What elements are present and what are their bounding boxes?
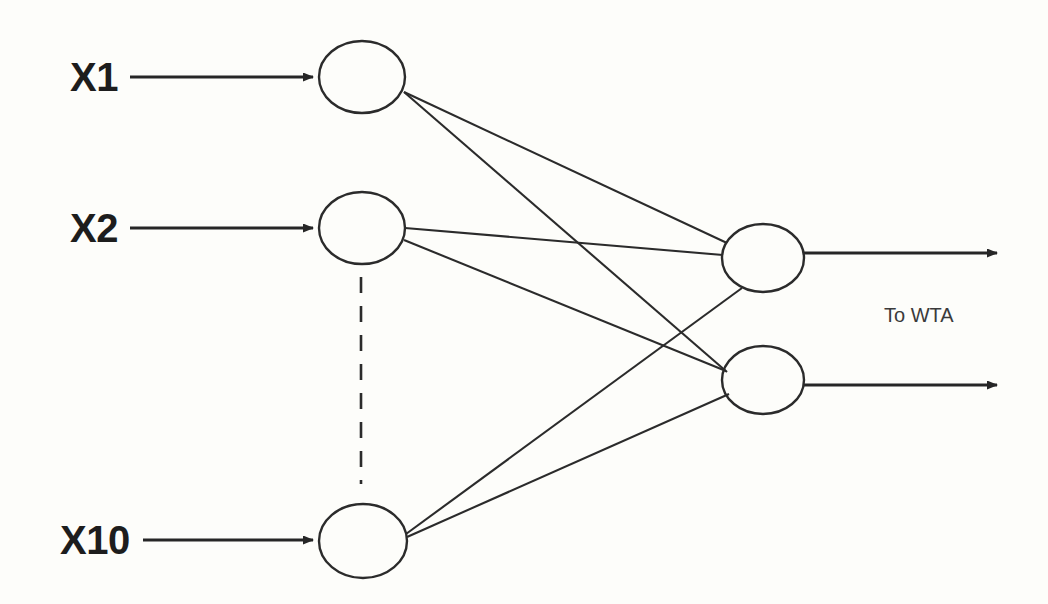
input-signal-arrows [130,77,313,540]
synapse-x1-to-out1 [404,92,727,243]
synapse-x2-to-out2 [404,240,726,371]
input-node-x2 [319,192,405,264]
synapse-connections [404,92,742,537]
to-wta-label: To WTA [884,305,954,325]
output-node-1 [722,224,804,292]
diagram-canvas [0,0,1048,604]
output-layer-nodes [722,224,804,414]
output-node-2 [722,346,804,414]
neural-network-diagram: X1X2X10To WTA [0,0,1048,604]
input-label-x10: X10 [60,520,130,560]
input-label-x2: X2 [70,208,118,248]
input-label-x1: X1 [70,57,118,97]
input-layer-nodes [319,41,407,578]
input-node-x10 [319,504,407,578]
input-node-x1 [319,41,405,113]
